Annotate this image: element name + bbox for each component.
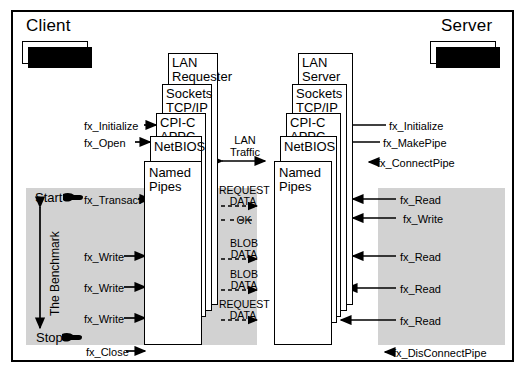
server-call-fx-makepipe: fx_MakePipe — [383, 137, 447, 149]
lan-message-ok: OK — [224, 215, 264, 226]
client-stack-named-pipes: Named Pipes — [144, 161, 202, 345]
client-call-fx-transact: fx_Transact — [84, 194, 141, 206]
lan-traffic-label: LAN Traffic — [225, 135, 265, 158]
server-call-fx-read-2: fx_Read — [400, 251, 441, 263]
client-call-fx-close: fx_Close — [86, 346, 129, 358]
server-stack-named-pipes: Named Pipes — [274, 161, 332, 345]
client-title: Client — [26, 17, 71, 35]
client-app-box: FXREQ — [22, 41, 88, 64]
client-call-fx-write-3: fx_Write — [84, 313, 124, 325]
lan-traffic-band — [222, 188, 257, 345]
benchmark-band-server — [378, 188, 505, 345]
server-call-fx-write: fx_Write — [403, 213, 443, 225]
client-call-fx-write-1: fx_Write — [84, 251, 124, 263]
server-call-fx-read-3: fx_Read — [400, 283, 441, 295]
client-call-fx-initialize: fx_Initialize — [84, 120, 138, 132]
lan-message-request-data-2: REQUEST DATA — [219, 299, 267, 320]
benchmark-axis-label: The Benchmark — [48, 231, 62, 316]
lan-message-request-data-1: REQUEST DATA — [219, 185, 267, 206]
server-call-fx-initialize: fx_Initialize — [389, 120, 443, 132]
server-call-fx-read-1: fx_Read — [400, 194, 441, 206]
lan-message-blob-data-1: BLOB DATA — [222, 238, 266, 259]
client-call-fx-open: fx_Open — [84, 137, 126, 149]
server-app-box: FXSVR — [430, 41, 496, 64]
server-call-fx-read-4: fx_Read — [400, 315, 441, 327]
server-call-fx-disconnectpipe: fx_DisConnectPipe — [393, 347, 487, 359]
benchmark-stop-label: Stop — [36, 331, 63, 345]
diagram-canvas: Client FXREQ Server FXSVR LAN Requester … — [0, 0, 526, 383]
server-call-fx-connectpipe: fx_ConnectPipe — [377, 157, 455, 169]
benchmark-start-label: Start — [35, 191, 62, 205]
client-call-fx-write-2: fx_Write — [84, 282, 124, 294]
lan-message-blob-data-2: BLOB DATA — [222, 269, 266, 290]
server-title: Server — [441, 17, 492, 35]
